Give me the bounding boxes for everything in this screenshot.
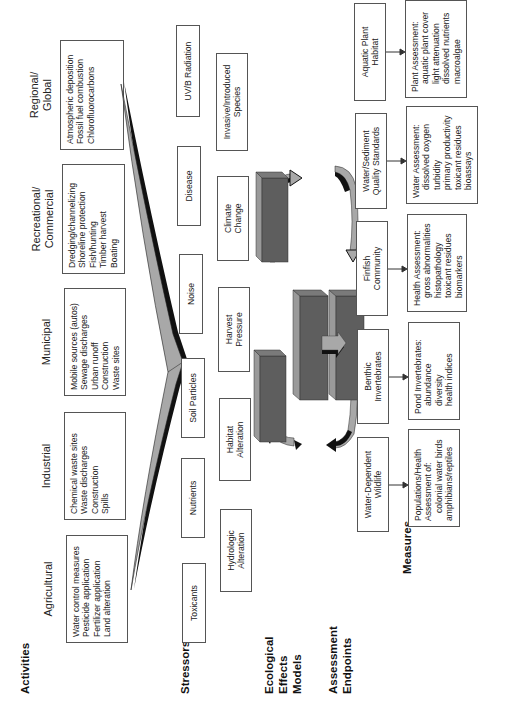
measure-item: colonial water birds xyxy=(434,435,444,521)
measure-item: amphibians/reptiles xyxy=(444,435,454,521)
measure-item: toxicant residues xyxy=(453,112,463,198)
measure-heading: Assessment of: xyxy=(423,435,433,521)
diagram-canvas: Activities Stressors Ecological Effects … xyxy=(0,0,506,702)
measure-pond-invertebrates: Pond Invertebrates: abundance diversity … xyxy=(408,322,460,420)
measure-populations-health: Populations/Health Assessment of: coloni… xyxy=(408,429,460,527)
measure-item: gross abnormalities xyxy=(422,220,432,306)
measure-item: turbidity xyxy=(432,112,442,198)
measure-item: health indices xyxy=(444,328,454,414)
measure-item: macroalgae xyxy=(452,6,462,92)
measure-heading: Pond Invertebrates: xyxy=(413,328,423,414)
measure-item: diversity xyxy=(434,328,444,414)
measure-item: biomarkers xyxy=(454,220,464,306)
measure-item: dissolved oxygen xyxy=(421,112,431,198)
measure-heading: Water Assessment: xyxy=(411,112,421,198)
measure-item: toxicant residues xyxy=(443,220,453,306)
measure-health-assessment: Health Assessment: gross abnormalities h… xyxy=(407,214,467,312)
measure-item: abundance xyxy=(423,328,433,414)
measure-heading: Health Assessment: xyxy=(412,220,422,306)
measure-item: dissolved nutrients xyxy=(441,6,451,92)
measure-item: primary productivity xyxy=(442,112,452,198)
measure-heading: Plant Assessment: xyxy=(410,6,420,92)
measure-item: histopathology xyxy=(433,220,443,306)
measure-water-assessment: Water Assessment: dissolved oxygen turbi… xyxy=(406,106,478,204)
measure-item: light attenuation xyxy=(431,6,441,92)
measure-plant-assessment: Plant Assessment: aquatic plant cover li… xyxy=(405,0,467,98)
measure-heading: Populations/Health xyxy=(413,435,423,521)
measure-item: aquatic plant cover xyxy=(420,6,430,92)
measure-item: bioassays xyxy=(463,112,473,198)
